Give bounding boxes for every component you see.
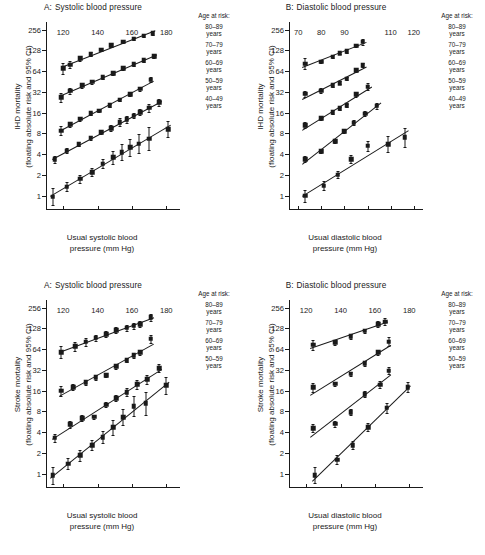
confidence-interval-cap — [129, 139, 132, 140]
panel-stroke-systolic: A:Systolic blood pressure Stroke mortali… — [0, 278, 242, 555]
confidence-interval-cap — [132, 416, 135, 417]
confidence-interval-cap — [91, 440, 94, 441]
y-tick-label: 32 — [33, 87, 41, 96]
y-tick-label: 4 — [37, 428, 41, 437]
y-tick-label: 128 — [28, 46, 41, 55]
data-point — [385, 406, 390, 411]
confidence-interval-cap — [304, 202, 307, 203]
data-point — [335, 457, 340, 462]
data-point — [137, 141, 142, 146]
x-axis-label: Usual diastolic blood pressure (mm Hg) — [257, 233, 433, 254]
legend: Age at risk: 80–89years70–79years60–69ye… — [430, 290, 484, 373]
y-tick-label: 32 — [33, 365, 41, 374]
trend-line — [302, 130, 409, 197]
legend-years-unit: years — [430, 344, 484, 351]
plot-area: 1248163264128256708090110120 — [289, 22, 423, 210]
confidence-interval-cap — [406, 392, 409, 393]
y-tick-label: 256 — [28, 25, 41, 34]
panel-title-text: Systolic blood pressure — [55, 3, 142, 12]
confidence-interval-cap — [322, 190, 325, 191]
y-tick-label: 8 — [37, 129, 41, 138]
legend-item-4: 50–59years — [430, 77, 484, 92]
legend-years-unit: years — [430, 84, 484, 91]
confidence-interval-cap — [101, 168, 104, 169]
y-tick-label: 4 — [280, 428, 284, 437]
legend-age-range: 50–59 — [187, 77, 241, 84]
confidence-interval-cap — [51, 467, 54, 468]
data-point — [66, 461, 71, 466]
panel-letter: A: — [44, 281, 52, 290]
data-point — [90, 170, 95, 175]
confidence-interval-cap — [51, 188, 54, 189]
legend-age-range: 70–79 — [430, 41, 484, 48]
data-point — [78, 453, 83, 458]
confidence-interval-cap — [67, 458, 70, 459]
confidence-interval-cap — [350, 163, 353, 164]
y-tick-label: 128 — [271, 324, 284, 333]
confidence-interval-cap — [166, 121, 169, 122]
legend-item-2: 70–79years — [187, 41, 241, 56]
confidence-interval-cap — [387, 136, 390, 137]
legend-years-unit: years — [187, 362, 241, 369]
data-point — [313, 473, 318, 478]
legend: Age at risk: 80–89years70–79years60–69ye… — [187, 290, 241, 373]
y-tick-label: 8 — [280, 407, 284, 416]
confidence-interval-cap — [148, 127, 151, 128]
legend-age-range: 80–89 — [430, 23, 484, 30]
legend-years-unit: years — [187, 344, 241, 351]
confidence-interval-cap — [313, 483, 316, 484]
data-point — [128, 145, 133, 150]
confidence-interval-cap — [313, 467, 316, 468]
confidence-interval-cap — [350, 155, 353, 156]
y-tick-label: 2 — [37, 448, 41, 457]
y-tick-label: 16 — [276, 108, 284, 117]
panel-title-text: Systolic blood pressure — [55, 281, 142, 290]
plot-area: 1248163264128256120140160180 — [289, 300, 423, 488]
legend-age-range: 60–69 — [187, 59, 241, 66]
y-tick-label: 2 — [37, 170, 41, 179]
confidence-interval-cap — [137, 134, 140, 135]
confidence-interval-cap — [91, 176, 94, 177]
confidence-interval-cap — [165, 377, 168, 378]
data-point — [350, 443, 355, 448]
confidence-interval-cap — [65, 191, 68, 192]
plot-area: 1248163264128256120140160180 — [46, 300, 180, 488]
data-point — [100, 435, 105, 440]
data-point — [111, 155, 116, 160]
confidence-interval-cap — [79, 461, 82, 462]
data-point — [100, 162, 105, 167]
confidence-interval-cap — [367, 431, 370, 432]
confidence-interval-cap — [112, 164, 115, 165]
y-tick-label: 32 — [276, 87, 284, 96]
legend-item-2: 70–79years — [430, 41, 484, 56]
confidence-interval-cap — [144, 392, 147, 393]
legend-item-1: 80–89years — [430, 23, 484, 38]
legend-years-unit: years — [187, 102, 241, 109]
data-point — [147, 136, 152, 141]
x-axis-label: Usual systolic blood pressure (mm Hg) — [14, 233, 190, 254]
legend-age-range: 70–79 — [187, 319, 241, 326]
panel-title: A:Systolic blood pressure — [0, 281, 186, 290]
legend-years-unit: years — [430, 102, 484, 109]
confidence-interval-cap — [322, 181, 325, 182]
confidence-interval-cap — [101, 443, 104, 444]
data-point — [164, 383, 169, 388]
y-tick-label: 32 — [276, 365, 284, 374]
confidence-interval-cap — [122, 425, 125, 426]
y-tick-label: 16 — [33, 108, 41, 117]
legend-years-unit: years — [187, 326, 241, 333]
panel-letter: B: — [286, 3, 294, 12]
legend-years-unit: years — [187, 30, 241, 37]
legend-years-unit: years — [430, 66, 484, 73]
confidence-interval-cap — [387, 152, 390, 153]
confidence-interval-cap — [148, 150, 151, 151]
data-series — [46, 22, 180, 210]
confidence-interval-cap — [336, 455, 339, 456]
legend-item-5: 40–49years — [430, 95, 484, 110]
blood-pressure-mortality-figure: A:Systolic blood pressure IHD mortality … — [0, 0, 485, 555]
panel-title: B:Diastolic blood pressure — [243, 3, 429, 12]
legend-item-3: 60–69years — [187, 337, 241, 352]
confidence-interval-cap — [112, 435, 115, 436]
confidence-interval-cap — [79, 183, 82, 184]
y-tick-label: 4 — [280, 150, 284, 159]
